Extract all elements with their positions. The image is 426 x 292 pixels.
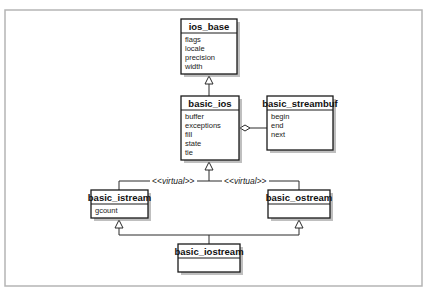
inheritance-basic-ios-to-ios-base xyxy=(205,76,213,96)
attribute: state xyxy=(185,139,201,148)
class-name: basic_istream xyxy=(88,192,151,203)
attribute: tie xyxy=(185,148,193,157)
attribute: buffer xyxy=(185,112,205,121)
attribute: fill xyxy=(185,130,192,139)
attribute: gcount xyxy=(95,206,118,215)
class-basic-istream: basic_istream gcount xyxy=(88,190,151,221)
stereotype-virtual-left: <<virtual>> xyxy=(152,176,195,186)
class-ios-base: ios_base flags locale precision width xyxy=(181,19,240,77)
class-basic-ostream: basic_ostream xyxy=(266,190,333,221)
uml-diagram: <<virtual>> <<virtual>> ios_base flags l… xyxy=(0,0,426,292)
class-basic-iostream: basic_iostream xyxy=(174,244,243,275)
class-name: basic_streambuf xyxy=(262,98,338,109)
inheritance-arrow-icon xyxy=(205,76,213,84)
class-basic-streambuf: basic_streambuf begin end next xyxy=(262,96,338,153)
attribute: next xyxy=(271,130,286,139)
attribute: begin xyxy=(271,112,289,121)
class-basic-ios: basic_ios buffer exceptions fill state t… xyxy=(181,96,242,163)
attribute: flags xyxy=(185,35,201,44)
aggregation-basic-ios-to-basic-streambuf xyxy=(240,125,267,131)
attribute: width xyxy=(184,62,203,71)
attribute: end xyxy=(271,121,284,130)
inheritance-arrow-icon xyxy=(295,220,303,228)
class-name: basic_ios xyxy=(188,98,231,109)
attribute: precision xyxy=(185,53,215,62)
class-name: basic_ostream xyxy=(266,192,333,203)
attribute: locale xyxy=(185,44,205,53)
class-name: basic_iostream xyxy=(174,246,243,257)
inheritance-arrow-icon xyxy=(115,220,123,228)
virtual-inheritance-connector xyxy=(119,162,299,190)
class-name: ios_base xyxy=(189,21,230,32)
inheritance-basic-iostream-connector xyxy=(115,220,303,244)
inheritance-arrow-icon xyxy=(205,162,213,170)
attribute: exceptions xyxy=(185,121,221,130)
stereotype-virtual-right: <<virtual>> xyxy=(224,176,267,186)
